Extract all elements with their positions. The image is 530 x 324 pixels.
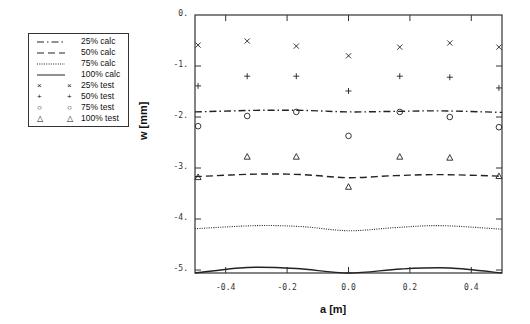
marker-50-test bbox=[496, 85, 502, 91]
marker-25-test bbox=[447, 40, 452, 45]
marker-25-test bbox=[195, 42, 200, 47]
marker-100-test bbox=[397, 154, 403, 160]
marker-25-test bbox=[245, 38, 250, 43]
marker-75-test bbox=[195, 123, 201, 129]
marker-25-test bbox=[294, 44, 299, 49]
curve-50-calc bbox=[195, 174, 502, 178]
marker-25-test bbox=[496, 45, 501, 50]
marker-100-test bbox=[293, 154, 299, 160]
marker-100-test bbox=[346, 184, 352, 190]
marker-50-test bbox=[195, 83, 201, 89]
marker-25-test bbox=[346, 53, 351, 58]
marker-75-test bbox=[346, 133, 352, 139]
curve-25-calc bbox=[195, 110, 502, 112]
marker-25-test bbox=[397, 45, 402, 50]
marker-50-test bbox=[447, 74, 453, 80]
curve-75-calc bbox=[195, 226, 502, 231]
marker-75-test bbox=[294, 109, 300, 115]
plot-area bbox=[0, 0, 530, 324]
marker-100-test bbox=[447, 155, 453, 161]
marker-50-test bbox=[346, 88, 352, 94]
marker-75-test bbox=[244, 113, 250, 119]
plot-frame bbox=[195, 15, 502, 273]
marker-50-test bbox=[244, 73, 250, 79]
marker-50-test bbox=[293, 73, 299, 79]
marker-75-test bbox=[447, 114, 453, 120]
marker-100-test bbox=[244, 154, 250, 160]
marker-50-test bbox=[397, 73, 403, 79]
marker-75-test bbox=[496, 124, 502, 130]
